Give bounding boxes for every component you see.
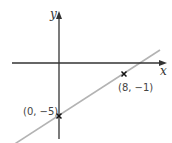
point-label-8-neg1: (8, −1) — [118, 82, 153, 93]
graph-line — [10, 50, 160, 143]
y-axis — [56, 11, 62, 139]
y-axis-label: y — [49, 7, 57, 21]
y-axis-arrow-icon — [56, 11, 62, 19]
point-label-0-neg5: (0, −5) — [23, 106, 58, 117]
x-axis-label: x — [160, 64, 167, 78]
coordinate-diagram: x y (8, −1) (0, −5) — [0, 0, 172, 143]
